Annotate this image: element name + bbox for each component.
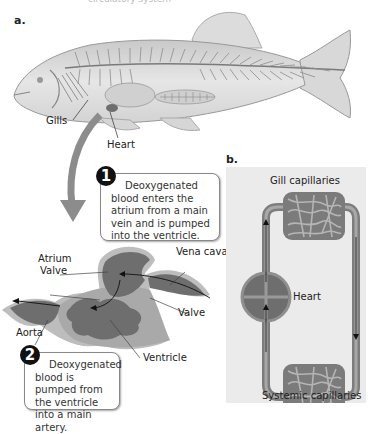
atrium-label: Atrium — [38, 253, 72, 264]
step-1-badge: 1 — [96, 166, 116, 186]
gill-capillaries-label: Gill capillaries — [270, 175, 340, 186]
circulation-loop-diagram — [226, 167, 366, 403]
panel-b-heart-label: Heart — [293, 291, 321, 302]
systemic-capillaries-label: Systemic capillaries — [262, 390, 361, 401]
callout-2-text: Deoxygenated blood is pumped from the ve… — [35, 359, 113, 434]
valve-lower-label: Valve — [178, 307, 205, 318]
panel-b-label: b. — [226, 153, 238, 166]
heart-chambers-diagram — [0, 240, 225, 360]
step-2-badge: 2 — [20, 345, 40, 365]
ventricle-label: Ventricle — [143, 352, 187, 363]
aorta-label: Aorta — [16, 327, 43, 338]
callout-1: Deoxygenated blood enters the atrium fro… — [100, 173, 220, 241]
callout-1-text: Deoxygenated blood enters the atrium fro… — [111, 180, 213, 243]
vena-cava-label: Vena cava — [176, 246, 228, 257]
callout-2: Deoxygenated blood is pumped from the ve… — [24, 352, 120, 410]
valve-upper-label: Valve — [40, 265, 67, 276]
